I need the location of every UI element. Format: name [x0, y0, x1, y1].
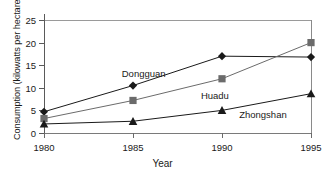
series-label-zhongshan: Zhongshan	[239, 109, 287, 120]
data-point-marker	[218, 75, 225, 82]
y-axis-title: Consumption (kilowatts per hectare)	[12, 0, 24, 140]
x-axis-title: Year	[0, 158, 325, 169]
series-line	[44, 56, 311, 112]
y-tick-label: 10	[25, 82, 36, 93]
y-tick-label: 25	[25, 15, 36, 26]
data-point-marker	[307, 53, 315, 61]
y-tick-label: 20	[25, 37, 36, 48]
y-tick-label: 15	[25, 60, 36, 71]
line-chart: Consumption (kilowatts per hectare) 0510…	[0, 0, 325, 178]
y-tick-label: 5	[31, 105, 36, 116]
x-tick-label: 1995	[300, 142, 321, 153]
data-point-marker	[129, 81, 137, 89]
data-point-marker	[218, 52, 226, 60]
y-tick-label: 0	[31, 128, 36, 139]
x-tick-label: 1985	[122, 142, 143, 153]
data-point-marker	[307, 89, 316, 97]
data-point-marker	[307, 39, 314, 46]
data-point-marker	[129, 97, 136, 104]
plot-area: 0510152025 1980198519901995 DongguanHuad…	[44, 20, 312, 134]
series-line	[44, 43, 311, 119]
data-point-marker	[40, 108, 48, 116]
x-tick-label: 1980	[33, 142, 54, 153]
series-label-huadu: Huadu	[201, 90, 229, 101]
x-tick-label: 1990	[211, 142, 232, 153]
series-label-dongguan: Dongguan	[122, 68, 166, 79]
